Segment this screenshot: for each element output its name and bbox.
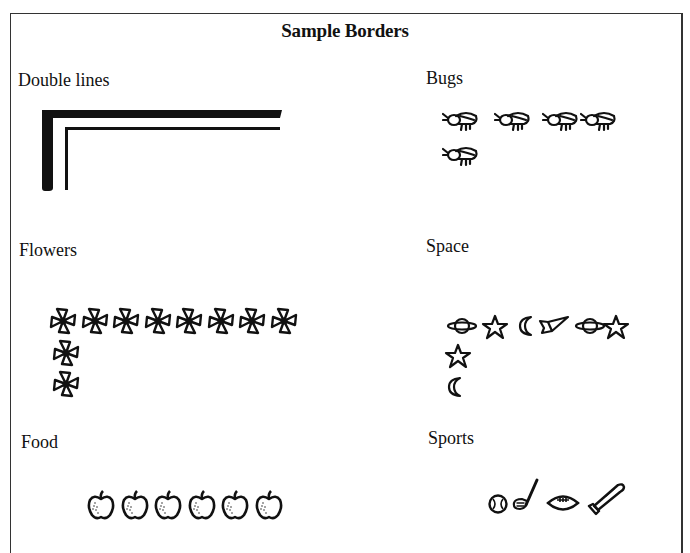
flower-icon	[143, 306, 173, 336]
bug-icon	[580, 108, 620, 134]
star-icon	[444, 343, 472, 369]
star-icon	[481, 314, 509, 340]
flower-icon	[237, 306, 267, 336]
golf-club-icon	[510, 477, 540, 513]
moon-icon	[515, 314, 537, 338]
page-border-frame	[10, 13, 683, 553]
apple-icon	[187, 489, 217, 521]
star-icon	[602, 314, 630, 340]
flower-icon	[51, 338, 81, 368]
bug-icon	[542, 108, 582, 134]
flower-icon	[51, 369, 81, 399]
flower-icon	[111, 306, 141, 336]
section-label-flowers: Flowers	[19, 240, 77, 261]
flower-icon	[174, 306, 204, 336]
flower-icon	[269, 306, 299, 336]
flower-icon	[80, 306, 110, 336]
double-line-corner-border	[40, 105, 290, 195]
football-icon	[546, 492, 580, 514]
bug-icon	[442, 143, 482, 169]
section-label-food: Food	[21, 432, 58, 453]
apple-icon	[220, 489, 250, 521]
bug-icon	[442, 108, 482, 134]
apple-icon	[120, 489, 150, 521]
section-label-sports: Sports	[428, 428, 474, 449]
flower-icon	[48, 306, 78, 336]
section-label-bugs: Bugs	[426, 68, 463, 89]
section-label-space: Space	[426, 236, 469, 257]
section-label-double-lines: Double lines	[18, 70, 110, 91]
moon-icon	[444, 375, 466, 399]
apple-icon	[153, 489, 183, 521]
flower-icon	[206, 306, 236, 336]
bug-icon	[494, 108, 534, 134]
page-title: Sample Borders	[0, 20, 690, 42]
baseball-bat-icon	[584, 480, 628, 516]
planet-icon	[446, 314, 478, 338]
rocket-icon	[538, 314, 570, 336]
baseball-icon	[487, 493, 509, 515]
apple-icon	[86, 489, 116, 521]
apple-icon	[254, 489, 284, 521]
